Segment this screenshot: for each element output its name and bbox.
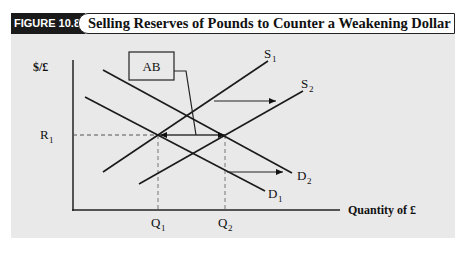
svg-text:1: 1 bbox=[272, 54, 277, 64]
y-axis-label: $/£ bbox=[33, 60, 48, 74]
supply-curve-s1 bbox=[103, 61, 268, 172]
svg-text:1: 1 bbox=[49, 135, 54, 145]
ab-label: AB bbox=[142, 59, 160, 74]
svg-text:Q: Q bbox=[151, 215, 161, 230]
x-axis-label: Quantity of £ bbox=[348, 203, 416, 217]
ab-connector bbox=[174, 71, 196, 135]
svg-text:1: 1 bbox=[278, 194, 283, 204]
chart-svg: AB $/£ Quantity of £ R 1 Q 1 Q 2 S 1 S 2… bbox=[0, 0, 463, 254]
s1-label: S 1 bbox=[264, 46, 277, 64]
r1-tick-label: R 1 bbox=[40, 127, 54, 145]
svg-text:R: R bbox=[40, 127, 49, 142]
svg-text:S: S bbox=[301, 76, 308, 91]
svg-text:Q: Q bbox=[218, 215, 228, 230]
q2-tick-label: Q 2 bbox=[218, 215, 233, 233]
q1-tick-label: Q 1 bbox=[151, 215, 166, 233]
svg-text:2: 2 bbox=[228, 223, 233, 233]
svg-text:S: S bbox=[264, 46, 271, 61]
svg-text:D: D bbox=[297, 168, 306, 183]
d1-label: D 1 bbox=[268, 186, 283, 204]
svg-text:2: 2 bbox=[307, 176, 312, 186]
svg-text:2: 2 bbox=[309, 84, 314, 94]
svg-text:1: 1 bbox=[161, 223, 166, 233]
svg-text:D: D bbox=[268, 186, 277, 201]
d2-label: D 2 bbox=[297, 168, 312, 186]
